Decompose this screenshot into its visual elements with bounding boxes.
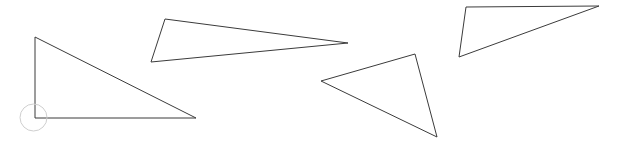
triangle-shape-3[interactable] bbox=[321, 54, 437, 137]
triangle-shape-1[interactable] bbox=[35, 37, 196, 118]
drawing-surface[interactable] bbox=[0, 0, 617, 152]
triangle-shape-2[interactable] bbox=[151, 19, 348, 62]
triangle-shape-4[interactable] bbox=[459, 6, 599, 57]
drawing-canvas[interactable] bbox=[0, 0, 617, 152]
